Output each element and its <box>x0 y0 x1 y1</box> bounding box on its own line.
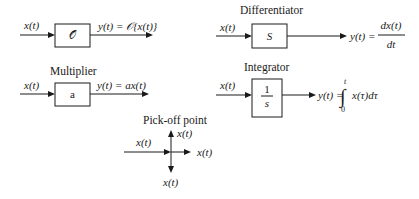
differentiator-title: Differentiator <box>240 4 303 16</box>
arrowhead-icon <box>309 92 316 98</box>
integrator-title: Integrator <box>244 61 290 74</box>
block-diagram-canvas: x(t) 𝒪 y(t) = 𝒪{x(t)} Multiplier x(t) a … <box>0 0 419 199</box>
arrowhead-icon <box>245 92 252 98</box>
pickoff-up-label: x(t) <box>176 127 193 140</box>
arrowhead-icon <box>168 166 174 173</box>
integrator-input-label: x(t) <box>219 79 236 92</box>
multiplier-input-label: x(t) <box>23 79 40 92</box>
arrowhead-icon <box>245 33 252 39</box>
integrator-box-numerator: 1 <box>264 83 270 95</box>
arrowhead-icon <box>164 149 171 155</box>
pickoff-block: Pick-off point x(t) x(t) x(t) x(t) <box>124 114 213 189</box>
multiplier-output-label: y(t) = ax(t) <box>96 79 146 92</box>
differentiator-block: Differentiator x(t) S y(t) = dx(t) dt <box>216 4 405 50</box>
arrowhead-icon <box>48 91 55 97</box>
arrowhead-icon <box>168 130 174 137</box>
integrator-block: Integrator x(t) 1 s y(t) = t ∫ 0 x(τ)dτ <box>216 61 379 117</box>
arrowhead-icon <box>184 149 191 155</box>
differentiator-denominator: dt <box>387 38 397 50</box>
pickoff-title: Pick-off point <box>143 114 208 127</box>
arrowhead-icon <box>146 32 153 38</box>
arrowhead-icon <box>142 91 149 97</box>
operator-input-label: x(t) <box>23 19 40 32</box>
integrator-box-denominator: s <box>265 97 269 109</box>
multiplier-title: Multiplier <box>50 65 97 78</box>
arrowhead-icon <box>340 33 347 39</box>
operator-output-label: y(t) = 𝒪{x(t)} <box>97 20 158 33</box>
integrator-integrand: x(τ)dτ <box>351 89 379 102</box>
differentiator-output-lhs: y(t) = <box>349 30 375 43</box>
operator-box-label: 𝒪 <box>69 29 77 41</box>
multiplier-block: Multiplier x(t) a y(t) = ax(t) <box>20 65 149 106</box>
integral-lower-limit: 0 <box>341 105 345 114</box>
differentiator-numerator: dx(t) <box>381 19 402 32</box>
differentiator-input-label: x(t) <box>219 21 236 34</box>
multiplier-box-label: a <box>70 88 75 100</box>
pickoff-input-label: x(t) <box>135 136 152 149</box>
arrowhead-icon <box>48 32 55 38</box>
differentiator-box-label: S <box>267 30 273 42</box>
pickoff-right-label: x(t) <box>196 146 213 159</box>
operator-block: x(t) 𝒪 y(t) = 𝒪{x(t)} <box>20 19 158 47</box>
pickoff-down-label: x(t) <box>162 176 179 189</box>
